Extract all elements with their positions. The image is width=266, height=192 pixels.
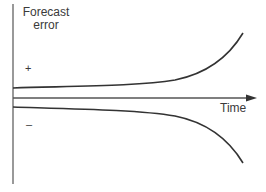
y-axis-label: Forecast error [20,6,72,32]
forecast-error-diagram: Forecast error Time + – [0,0,266,192]
negative-sign-label: – [26,118,32,131]
x-axis-arrowhead-icon [246,95,257,102]
positive-sign-label: + [25,62,31,75]
y-axis-label-line2: error [20,19,72,32]
x-axis-label: Time [220,102,246,115]
lower-error-bound-curve [13,107,243,163]
upper-error-bound-curve [13,33,243,88]
